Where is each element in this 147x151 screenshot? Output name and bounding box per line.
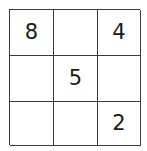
grid-cell-r1c3[interactable]: 4 bbox=[98, 10, 141, 56]
grid-cell-r2c1[interactable] bbox=[10, 56, 54, 102]
grid-cell-r1c1[interactable]: 8 bbox=[10, 10, 54, 56]
grid-3x3: 8 4 5 2 bbox=[9, 9, 140, 145]
grid-cell-r3c3[interactable]: 2 bbox=[98, 102, 141, 146]
cell-value-r1c3: 4 bbox=[112, 22, 125, 43]
grid-cell-r2c2[interactable]: 5 bbox=[54, 56, 98, 102]
cell-value-r3c3: 2 bbox=[112, 113, 125, 134]
cell-value-r2c2: 5 bbox=[69, 68, 82, 89]
grid-cell-r1c2[interactable] bbox=[54, 10, 98, 56]
grid-cell-r3c2[interactable] bbox=[54, 102, 98, 146]
grid-cell-r3c1[interactable] bbox=[10, 102, 54, 146]
grid-cell-r2c3[interactable] bbox=[98, 56, 141, 102]
number-grid-puzzle: 8 4 5 2 bbox=[0, 0, 147, 151]
cell-value-r1c1: 8 bbox=[25, 22, 38, 43]
